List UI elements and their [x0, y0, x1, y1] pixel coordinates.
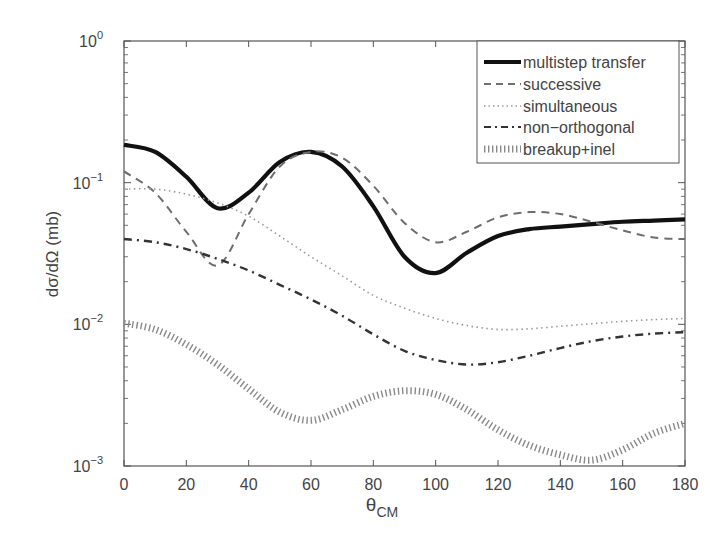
y-tick-label: 100 — [79, 29, 103, 50]
legend-label: simultaneous — [523, 98, 617, 115]
x-axis-label: θCM — [366, 494, 398, 520]
x-tick-labels: 020406080100120140160180 — [120, 476, 699, 493]
legend-label: multistep transfer — [523, 54, 646, 71]
x-tick-label: 100 — [422, 476, 449, 493]
x-tick-label: 160 — [609, 476, 636, 493]
x-tick-label: 20 — [177, 476, 195, 493]
chart: 020406080100120140160180 10010−110−210−3… — [0, 0, 728, 560]
x-tick-label: 80 — [364, 476, 382, 493]
x-tick-label: 120 — [485, 476, 512, 493]
x-axis-label-sub: CM — [376, 504, 398, 520]
x-axis-label-main: θ — [366, 494, 377, 515]
legend-label: breakup+inel — [523, 141, 615, 158]
legend: multistep transfer successive simultaneo… — [477, 41, 679, 163]
x-tick-label: 180 — [672, 476, 699, 493]
y-axis-label: dσ/dΩ (mb) — [43, 211, 62, 298]
legend-label: non−orthogonal — [523, 119, 635, 136]
y-tick-labels: 10010−110−210−3 — [73, 29, 103, 475]
y-tick-label: 10−2 — [73, 312, 103, 333]
x-tick-label: 140 — [547, 476, 574, 493]
legend-label: successive — [523, 76, 601, 93]
x-tick-label: 40 — [240, 476, 258, 493]
y-tick-label: 10−3 — [73, 454, 103, 475]
y-tick-label: 10−1 — [73, 171, 103, 192]
x-tick-label: 60 — [302, 476, 320, 493]
x-tick-label: 0 — [120, 476, 129, 493]
